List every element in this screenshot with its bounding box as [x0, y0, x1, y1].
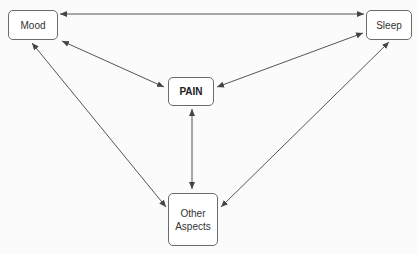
edge-sleep-pain — [217, 33, 363, 87]
node-sleep-label: Sleep — [376, 19, 402, 32]
node-sleep: Sleep — [366, 10, 412, 40]
edge-sleep-other — [221, 42, 389, 207]
node-mood-label: Mood — [20, 19, 45, 32]
node-mood: Mood — [8, 10, 58, 40]
edge-mood-pain — [62, 41, 164, 87]
edge-mood-other — [32, 43, 166, 207]
node-pain-label: PAIN — [179, 85, 202, 98]
node-other-aspects: Other Aspects — [168, 193, 218, 246]
node-other-label-line1: Other — [180, 207, 205, 220]
node-other-label-line2: Aspects — [175, 220, 211, 233]
node-pain: PAIN — [168, 77, 214, 106]
